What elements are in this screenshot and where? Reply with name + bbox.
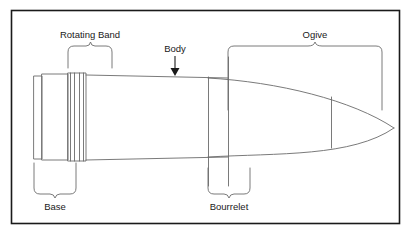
projectile-diagram-figure: Rotating Band Body Ogive Base Bourrelet bbox=[0, 0, 411, 234]
figure-border bbox=[12, 11, 400, 224]
label-ogive: Ogive bbox=[303, 29, 328, 40]
label-bourrelet: Bourrelet bbox=[210, 201, 249, 212]
label-rotating-band: Rotating Band bbox=[60, 29, 120, 40]
label-body: Body bbox=[164, 43, 186, 54]
diagram-canvas: Rotating Band Body Ogive Base Bourrelet bbox=[0, 0, 411, 234]
label-base: Base bbox=[44, 201, 66, 212]
